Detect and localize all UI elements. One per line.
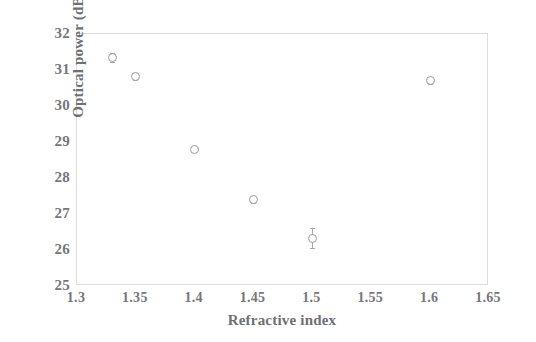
x-tick-label: 1.65 (475, 290, 501, 306)
plot-area (76, 33, 488, 285)
y-tick-label: 29 (54, 133, 70, 150)
y-axis-title: Optical power (dB) (70, 0, 87, 181)
data-point (249, 195, 258, 204)
error-bar-cap (310, 248, 315, 249)
y-tick-label: 30 (54, 97, 70, 114)
scatter-chart-figure: 3231302928272625 1.31.351.41.451.51.551.… (0, 0, 536, 342)
y-axis-tick-labels: 3231302928272625 (40, 33, 70, 285)
x-tick-label: 1.45 (240, 290, 266, 306)
x-tick-label: 1.5 (302, 290, 320, 306)
y-tick-label: 28 (54, 169, 70, 186)
data-point (108, 53, 117, 62)
y-tick-label: 26 (54, 241, 70, 258)
x-tick-label: 1.6 (420, 290, 438, 306)
x-tick-label: 1.3 (67, 290, 85, 306)
x-tick-label: 1.4 (185, 290, 203, 306)
y-tick-label: 31 (54, 61, 70, 78)
y-tick-label: 32 (54, 25, 70, 42)
x-tick-label: 1.35 (122, 290, 148, 306)
data-point (131, 72, 140, 81)
error-bar-cap (310, 228, 315, 229)
data-point (308, 234, 317, 243)
data-point (190, 145, 199, 154)
data-point (426, 76, 435, 85)
x-tick-label: 1.55 (357, 290, 383, 306)
y-tick-label: 27 (54, 205, 70, 222)
x-axis-tick-labels: 1.31.351.41.451.51.551.61.65 (76, 290, 488, 312)
x-axis-title: Refractive index (76, 312, 488, 329)
